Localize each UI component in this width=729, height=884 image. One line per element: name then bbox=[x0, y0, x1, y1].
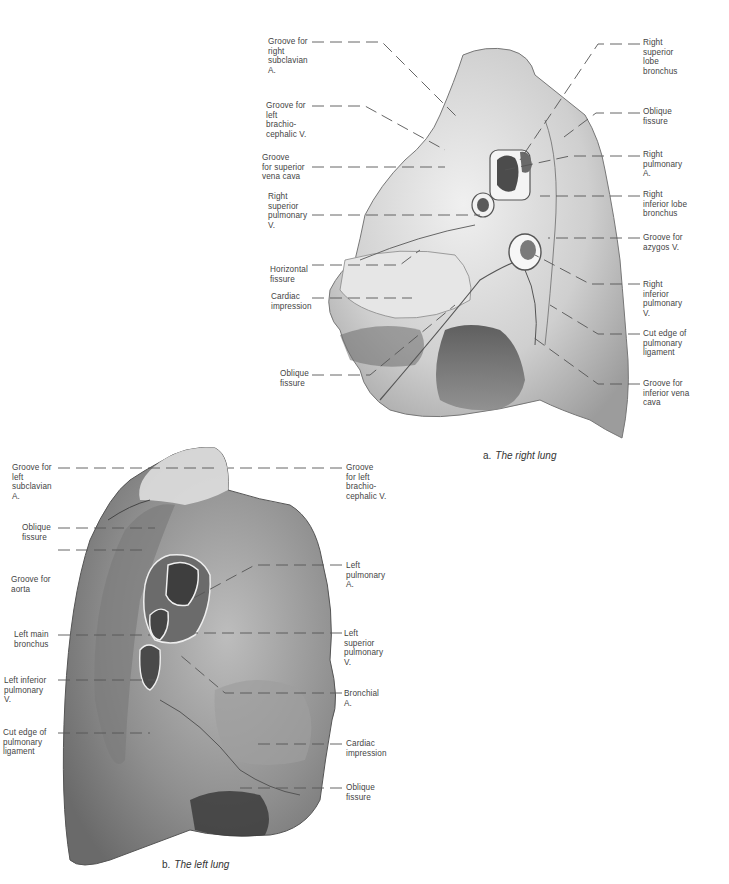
label-oblique-fissure-right-lower: Oblique fissure bbox=[280, 369, 309, 388]
label-groove-left-subclavian-a: Groove for left subclavian A. bbox=[12, 463, 52, 501]
label-right-superior-pulmonary-v: Right superior pulmonary V. bbox=[268, 192, 307, 230]
caption-right-lung: a.The right lung bbox=[483, 450, 557, 461]
right-lung-illustration bbox=[329, 48, 629, 438]
label-right-inferior-lobe-bronchus: Right inferior lobe bronchus bbox=[643, 190, 687, 219]
label-groove-superior-vena-cava: Groove for superior vena cava bbox=[262, 153, 305, 182]
label-left-superior-pulmonary-v: Left superior pulmonary V. bbox=[344, 629, 383, 667]
label-cardiac-impression-right: Cardiac impression bbox=[271, 292, 312, 311]
caption-title: The right lung bbox=[495, 450, 556, 461]
label-cut-edge-pulmonary-ligament-right: Cut edge of pulmonary ligament bbox=[643, 329, 686, 358]
label-oblique-fissure-left-lower: Oblique fissure bbox=[346, 783, 375, 802]
label-cardiac-impression-left: Cardiac impression bbox=[346, 739, 387, 758]
label-groove-left-brachiocephalic-v: Groove for left brachio- cephalic V. bbox=[266, 101, 306, 139]
label-right-pulmonary-a: Right pulmonary A. bbox=[643, 150, 682, 179]
label-left-pulmonary-a: Left pulmonary A. bbox=[346, 561, 385, 590]
caption-title: The left lung bbox=[174, 859, 229, 870]
lung-anatomy-figure: Groove for right subclavian A. Groove fo… bbox=[0, 0, 729, 884]
label-oblique-fissure-right-upper: Oblique fissure bbox=[643, 107, 672, 126]
label-left-main-bronchus: Left main bronchus bbox=[14, 630, 49, 649]
caption-letter: a. bbox=[483, 450, 491, 461]
label-groove-right-subclavian-a: Groove for right subclavian A. bbox=[268, 37, 308, 75]
label-groove-left-brachiocephalic-v: Groove for left brachio- cephalic V. bbox=[346, 463, 386, 501]
label-cut-edge-pulmonary-ligament-left: Cut edge of pulmonary ligament bbox=[3, 728, 46, 757]
label-right-superior-lobe-bronchus: Right superior lobe bronchus bbox=[643, 38, 677, 76]
label-oblique-fissure-left-upper: Oblique fissure bbox=[22, 523, 51, 542]
label-left-inferior-pulmonary-v: Left inferior pulmonary V. bbox=[4, 676, 46, 705]
label-right-inferior-pulmonary-v: Right inferior pulmonary V. bbox=[643, 280, 682, 318]
label-bronchial-a: Bronchial A. bbox=[344, 689, 379, 708]
caption-left-lung: b.The left lung bbox=[162, 859, 229, 870]
label-groove-aorta: Groove for aorta bbox=[11, 575, 51, 594]
caption-letter: b. bbox=[162, 859, 170, 870]
label-horizontal-fissure: Horizontal fissure bbox=[270, 265, 308, 284]
label-groove-azygos-v: Groove for azygos V. bbox=[643, 233, 683, 252]
label-groove-inferior-vena-cava: Groove for inferior vena cava bbox=[643, 379, 689, 408]
left-lung-illustration bbox=[63, 448, 335, 865]
